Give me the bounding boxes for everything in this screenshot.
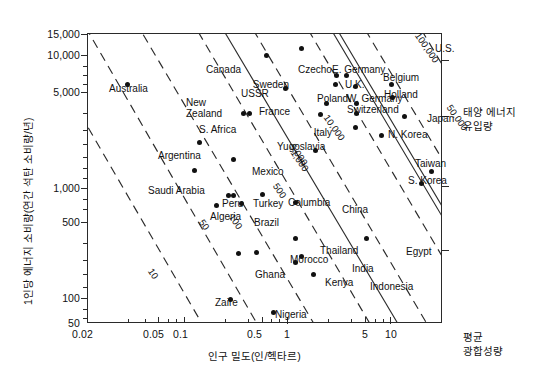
photosynthesis-note-line1: 평균 <box>463 331 483 343</box>
xtick-mark <box>383 319 384 323</box>
xtick-0-1: 0.1 <box>173 328 188 340</box>
data-point-label: Yugoslavia <box>277 141 325 152</box>
xtick-1: 1 <box>284 328 290 340</box>
data-point-label: China <box>342 204 368 215</box>
data-point-label: Belgium <box>383 72 419 83</box>
data-point <box>311 272 316 277</box>
data-point-label: E. Germany <box>332 64 385 75</box>
solar-energy-note-line2: 유입량 <box>463 120 493 132</box>
ytick-10000: 10,000 <box>30 49 80 61</box>
data-point-label: Indonesia <box>370 281 413 292</box>
data-point-label: S. Korea <box>408 175 447 186</box>
xtick-mark <box>351 319 352 323</box>
data-point-label: Italy <box>314 127 332 138</box>
xtick-mark <box>365 317 366 323</box>
ytick-15000: 15,000 <box>30 28 80 40</box>
xtick-mark <box>184 317 185 323</box>
data-point-label: Kenya <box>325 277 353 288</box>
data-point-label: France <box>259 106 290 117</box>
x-axis-title: 인구 밀도(인/헥타르) <box>208 348 301 363</box>
ytick-1000: 1,000 <box>30 182 80 194</box>
data-point-label: Australia <box>109 83 148 94</box>
y-axis-title: 1인당 에너지 소비량(연간 석탄 소비량/년) <box>20 118 35 305</box>
data-point-label: Argentina <box>158 150 201 161</box>
xtick-mark <box>158 317 159 323</box>
data-point <box>197 140 202 145</box>
xtick-0-02: 0.02 <box>72 328 93 340</box>
xtick-mark <box>390 317 391 324</box>
xtick-10: 10 <box>385 328 397 340</box>
solar-energy-note-line1: 태양 에너지 <box>463 106 516 118</box>
data-point-label: U.K. <box>345 79 364 90</box>
data-point-label: U.S. <box>435 43 454 54</box>
xtick-mark <box>128 319 129 323</box>
data-point-label: Switzerland <box>347 104 399 115</box>
xtick-0-05: 0.05 <box>143 328 164 340</box>
xtick-mark <box>168 319 169 323</box>
data-point-label: Poland <box>317 93 348 104</box>
right-tick-mark <box>442 60 449 61</box>
data-point-label: Japan <box>427 113 454 124</box>
data-point-label: W. Germany <box>347 93 403 104</box>
right-tick-mark <box>442 186 449 187</box>
photosynthesis-note: 평균 광합성량 <box>463 330 503 358</box>
data-point <box>293 260 298 265</box>
data-point-label: N. Korea <box>388 129 427 140</box>
data-point <box>293 236 298 241</box>
data-point-label: Ghana <box>255 269 285 280</box>
data-point-label: Taiwan <box>415 158 446 169</box>
xtick-mark <box>176 319 177 323</box>
xtick-mark <box>262 317 263 323</box>
data-point-label: Canada <box>206 64 241 75</box>
xtick-mark <box>225 319 226 323</box>
data-point-label: S. Africa <box>199 124 236 135</box>
data-point-label: Czecho <box>298 64 332 75</box>
ytick-5000: 5,000 <box>30 86 80 98</box>
ytick-100: 100 <box>30 292 80 304</box>
data-point-label: Turkey <box>253 198 283 209</box>
xtick-mark <box>328 319 329 323</box>
solar-energy-note: 태양 에너지 유입량 <box>463 105 516 133</box>
xtick-mark <box>145 319 146 323</box>
data-point <box>353 125 358 130</box>
data-point-label: Brazil <box>254 217 279 228</box>
right-tick-mark <box>442 250 449 251</box>
ytick-500: 500 <box>30 216 80 228</box>
data-point-label: Egypt <box>406 246 432 257</box>
xtick-mark <box>87 317 88 323</box>
data-point-label: India <box>352 263 374 274</box>
data-point <box>192 168 197 173</box>
data-point-label: Saudi Arabia <box>148 185 205 196</box>
data-point-label: Sweden <box>253 79 289 90</box>
xtick-mark <box>248 319 249 323</box>
xtick-mark <box>271 319 272 323</box>
xtick-5: 5 <box>362 328 368 340</box>
data-point-label: Nigeria <box>275 309 307 320</box>
data-point <box>241 111 246 116</box>
xtick-mark <box>375 319 376 323</box>
xtick-0-5: 0.5 <box>247 328 262 340</box>
data-point-label: NewZealand <box>186 97 222 119</box>
data-point-label: Zaire <box>215 297 238 308</box>
photosynthesis-note-line2: 광합성량 <box>463 345 503 357</box>
data-point-label: Algeria <box>210 211 241 222</box>
data-point <box>402 114 407 119</box>
data-point <box>264 53 269 58</box>
data-point-label: Mexico <box>252 166 284 177</box>
chart-figure: 15,000 10,000 5,000 1,000 500 100 50 <box>0 0 555 391</box>
